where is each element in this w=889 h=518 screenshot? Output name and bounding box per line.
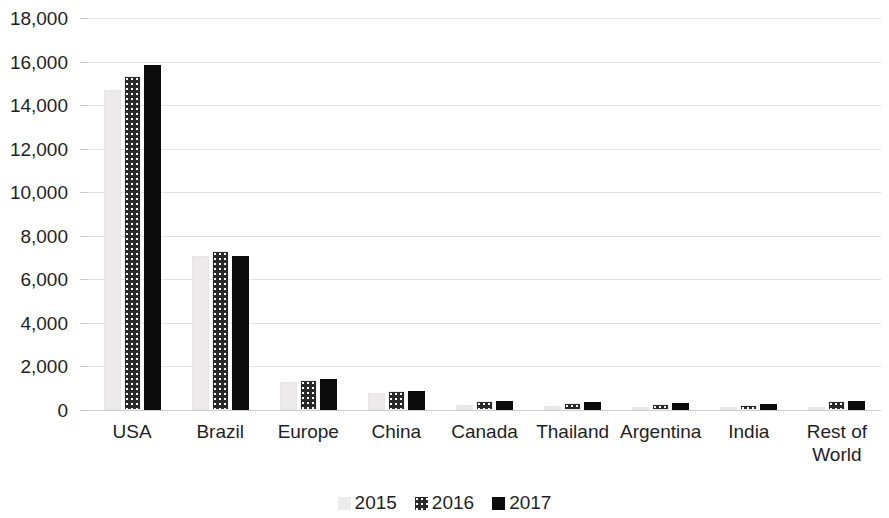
y-axis: 18,00016,00014,00012,00010,0008,0006,000…	[0, 0, 78, 518]
bar	[476, 401, 493, 410]
y-axis-tick-mark	[80, 410, 88, 411]
bar-group	[176, 18, 264, 410]
x-axis-tick-label-line: India	[705, 420, 793, 443]
bar-group	[264, 18, 352, 410]
x-axis: USABrazilEuropeChinaCanadaThailandArgent…	[88, 420, 881, 466]
x-axis-tick-label: Europe	[264, 420, 352, 466]
bar-group	[352, 18, 440, 410]
y-axis-tick-label: 0	[0, 401, 78, 420]
bar	[564, 403, 581, 410]
x-axis-tick-label: Canada	[440, 420, 528, 466]
bar-chart: 18,00016,00014,00012,00010,0008,0006,000…	[0, 0, 889, 518]
chart-legend: 201520162017	[0, 492, 889, 514]
bar	[144, 65, 161, 410]
x-axis-tick-label-line: Europe	[264, 420, 352, 443]
x-axis-tick-label-line: Argentina	[617, 420, 705, 443]
x-axis-tick-label: Thailand	[529, 420, 617, 466]
bar-group	[88, 18, 176, 410]
x-axis-tick-label-line: China	[352, 420, 440, 443]
bar	[828, 401, 845, 410]
bar-group	[617, 18, 705, 410]
bar	[584, 402, 601, 410]
bar	[720, 407, 737, 410]
y-axis-tick-label: 6,000	[0, 270, 78, 289]
y-axis-tick-label: 14,000	[0, 96, 78, 115]
y-axis-tick-label: 10,000	[0, 183, 78, 202]
bar	[192, 256, 209, 410]
bar	[496, 401, 513, 410]
bar	[104, 90, 121, 410]
x-axis-tick-label: Argentina	[617, 420, 705, 466]
y-axis-tick-label: 16,000	[0, 52, 78, 71]
bar-group	[793, 18, 881, 410]
bar	[320, 379, 337, 410]
y-axis-tick-mark	[80, 149, 88, 150]
legend-label: 2016	[432, 492, 474, 514]
bar	[848, 401, 865, 410]
bar	[760, 404, 777, 410]
legend-swatch-icon	[338, 497, 351, 510]
y-axis-tick-mark	[80, 192, 88, 193]
x-axis-tick-label-line: Canada	[440, 420, 528, 443]
bar-group	[705, 18, 793, 410]
x-axis-tick-label: Brazil	[176, 420, 264, 466]
legend-item[interactable]: 2017	[492, 492, 551, 514]
bar	[808, 407, 825, 410]
x-axis-tick-label-line: World	[793, 443, 881, 466]
y-axis-tick-mark	[80, 366, 88, 367]
legend-item[interactable]: 2016	[415, 492, 474, 514]
bar-group	[529, 18, 617, 410]
gridline	[88, 410, 881, 411]
x-axis-tick-label: USA	[88, 420, 176, 466]
bar	[544, 406, 561, 410]
x-axis-tick-label-line: Rest of	[793, 420, 881, 443]
bar	[408, 391, 425, 410]
y-axis-tick-mark	[80, 279, 88, 280]
x-axis-tick-label: Rest ofWorld	[793, 420, 881, 466]
bar	[632, 407, 649, 410]
legend-swatch-icon	[415, 497, 428, 510]
legend-label: 2015	[355, 492, 397, 514]
legend-item[interactable]: 2015	[338, 492, 397, 514]
y-axis-tick-mark	[80, 62, 88, 63]
bar	[388, 391, 405, 410]
bar	[368, 393, 385, 410]
y-axis-tick-label: 8,000	[0, 226, 78, 245]
bar	[672, 403, 689, 410]
bar-groups	[88, 18, 881, 410]
x-axis-tick-label: India	[705, 420, 793, 466]
x-axis-tick-label: China	[352, 420, 440, 466]
y-axis-tick-mark	[80, 18, 88, 19]
bar	[212, 251, 229, 410]
x-axis-tick-label-line: Thailand	[529, 420, 617, 443]
y-axis-tick-label: 2,000	[0, 357, 78, 376]
bar	[124, 76, 141, 410]
y-axis-tick-mark	[80, 105, 88, 106]
bar	[300, 380, 317, 410]
y-axis-tick-mark	[80, 236, 88, 237]
y-axis-tick-label: 18,000	[0, 9, 78, 28]
legend-label: 2017	[509, 492, 551, 514]
bar	[232, 256, 249, 410]
bar	[280, 382, 297, 410]
y-axis-tick-mark	[80, 323, 88, 324]
bar	[740, 405, 757, 410]
bar-group	[440, 18, 528, 410]
y-axis-tick-label: 4,000	[0, 313, 78, 332]
x-axis-tick-label-line: Brazil	[176, 420, 264, 443]
bar	[652, 404, 669, 410]
y-axis-tick-label: 12,000	[0, 139, 78, 158]
bar	[456, 405, 473, 410]
legend-swatch-icon	[492, 497, 505, 510]
x-axis-tick-label-line: USA	[88, 420, 176, 443]
